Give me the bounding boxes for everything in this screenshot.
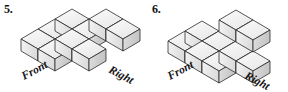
figure-5: 5.: [0, 0, 144, 92]
cube-stack-exercise: 5.: [0, 0, 288, 92]
figure-6-front-label: Front: [164, 58, 195, 82]
figure-5-drawing: Front Right: [0, 0, 144, 92]
figure-6: 6.: [144, 0, 288, 92]
figure-5-right-label: Right: [106, 63, 137, 88]
figure-5-front-label: Front: [18, 58, 49, 82]
figure-6-drawing: Front Right: [144, 0, 288, 92]
